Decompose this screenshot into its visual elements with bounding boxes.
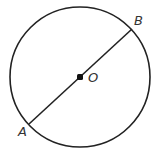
circle-diagram: O B A [0, 0, 156, 150]
center-point-dot [77, 74, 83, 80]
label-o: O [88, 70, 98, 85]
label-b: B [134, 13, 143, 28]
label-a: A [17, 124, 27, 139]
